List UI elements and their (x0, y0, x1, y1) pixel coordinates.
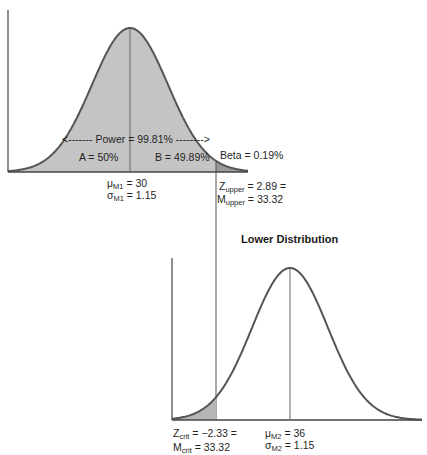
m-upper-label: Mupper = 33.32 (217, 193, 283, 209)
power-label: <------- Power = 99.81% --------> (62, 133, 210, 145)
region-b-label: B = 49.89% (155, 151, 210, 163)
beta-label: Beta = 0.19% (220, 149, 283, 161)
lower-sd-label: σM2 = 1.15 (265, 439, 314, 455)
distribution-diagram (0, 0, 427, 455)
upper-sd-label: σM1 = 1.15 (107, 189, 156, 205)
region-a-label: A = 50% (79, 151, 118, 163)
lower-distribution-title: Lower Distribution (241, 233, 338, 245)
lower-alpha-tail (172, 397, 216, 420)
lower-curve (172, 268, 422, 420)
m-crit-label: Mcrit = 33.32 (173, 441, 230, 455)
